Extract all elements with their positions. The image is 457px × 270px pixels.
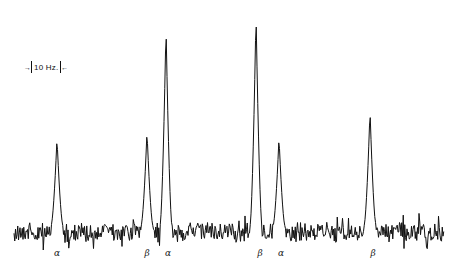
peak-label-beta-2: β xyxy=(257,248,262,258)
spectrum-trace xyxy=(0,0,457,270)
peak-label-beta-3: β xyxy=(370,248,375,258)
peak-label-beta-1: β xyxy=(144,248,149,258)
nmr-spectrum-figure: → 10 Hz. ← α β α β α β xyxy=(0,0,457,270)
peak-label-alpha-1: α xyxy=(54,248,60,258)
peak-label-alpha-2: α xyxy=(165,248,171,258)
left-arrow-icon: ← xyxy=(61,64,68,71)
scale-bar-10hz: → 10 Hz. ← xyxy=(24,60,68,74)
right-arrow-icon: → xyxy=(24,64,31,71)
scale-bar-label: 10 Hz. xyxy=(32,63,60,72)
peak-label-alpha-3: α xyxy=(278,248,284,258)
